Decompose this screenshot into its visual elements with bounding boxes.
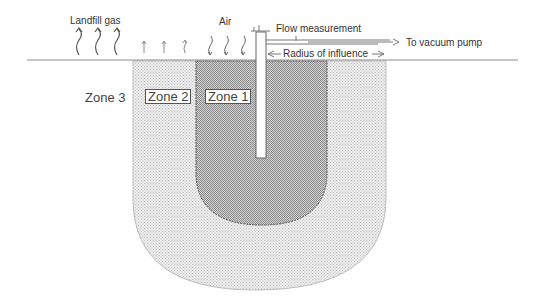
air-label: Air [219,17,231,27]
zone-1-label: Zone 1 [205,89,251,104]
landfill-gas-arrows [76,28,120,55]
zone-2-label: Zone 2 [145,89,191,104]
air-arrows [208,36,245,55]
radius-left-arrow [268,51,281,57]
to-vacuum-pump-label: To vacuum pump [406,38,482,48]
zone-3-label: Zone 3 [85,91,125,104]
small-gas-arrows [142,40,187,53]
landfill-gas-label: Landfill gas [70,16,121,26]
extraction-well-pipe [256,32,266,158]
radius-of-influence-label: Radius of influence [283,49,368,59]
radius-right-arrow [372,51,384,57]
flow-measurement-label: Flow measurement [276,24,361,34]
